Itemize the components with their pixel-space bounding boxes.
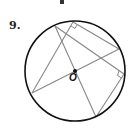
circle-diagram bbox=[0, 0, 136, 130]
right-angle-mark-b bbox=[71, 25, 77, 29]
chord-df bbox=[96, 74, 124, 117]
center-label: O bbox=[69, 72, 77, 83]
